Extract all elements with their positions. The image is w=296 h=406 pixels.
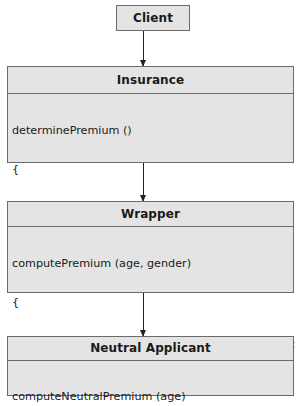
arrow-insurance-to-wrapper (143, 163, 144, 201)
neutral-applicant-method-signature: computeNeutralPremium (age) (12, 390, 293, 403)
wrapper-class-title: Wrapper (8, 202, 293, 227)
client-class-box: Client (116, 5, 190, 31)
client-class-title: Client (117, 6, 189, 30)
arrow-wrapper-to-neutral-applicant (143, 293, 144, 336)
insurance-method-signature: determinePremium () (12, 124, 293, 137)
insurance-class-box: Insurance determinePremium () { wrapper.… (7, 66, 294, 163)
open-brace: { (12, 163, 293, 176)
wrapper-class-box: Wrapper computePremium (age, gender) { n… (7, 201, 294, 293)
neutral-applicant-class-title: Neutral Applicant (8, 337, 293, 361)
neutral-applicant-class-box: Neutral Applicant computeNeutralPremium … (7, 336, 294, 396)
insurance-class-title: Insurance (8, 67, 293, 94)
wrapper-method-signature: computePremium (age, gender) (12, 257, 293, 270)
neutral-applicant-method-body: computeNeutralPremium (age) (8, 361, 293, 406)
arrow-client-to-insurance (143, 31, 144, 66)
open-brace: { (12, 296, 293, 309)
